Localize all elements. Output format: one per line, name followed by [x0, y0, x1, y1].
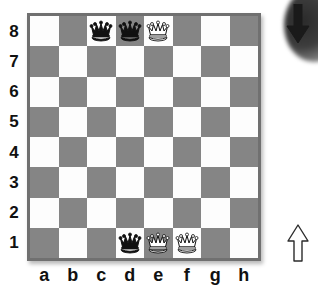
arrow-down-icon	[286, 4, 310, 44]
square-f6[interactable]	[173, 77, 202, 107]
rank-label-8: 8	[2, 16, 26, 46]
square-d8[interactable]	[116, 16, 145, 46]
square-h2[interactable]	[230, 198, 259, 228]
file-label-h: h	[230, 262, 259, 288]
square-e3[interactable]	[144, 167, 173, 197]
square-a5[interactable]	[30, 107, 59, 137]
file-label-a: a	[30, 262, 59, 288]
square-f2[interactable]	[173, 198, 202, 228]
square-b7[interactable]	[59, 46, 88, 76]
square-b3[interactable]	[59, 167, 88, 197]
file-label-c: c	[87, 262, 116, 288]
square-a4[interactable]	[30, 137, 59, 167]
square-d5[interactable]	[116, 107, 145, 137]
square-c5[interactable]	[87, 107, 116, 137]
rank-label-6: 6	[2, 77, 26, 107]
square-g3[interactable]	[201, 167, 230, 197]
file-label-f: f	[173, 262, 202, 288]
black-queen-piece[interactable]	[118, 19, 142, 43]
square-h7[interactable]	[230, 46, 259, 76]
square-e8[interactable]	[144, 16, 173, 46]
square-d1[interactable]	[116, 228, 145, 258]
square-e5[interactable]	[144, 107, 173, 137]
square-a3[interactable]	[30, 167, 59, 197]
rank-label-3: 3	[2, 167, 26, 197]
black-queen-piece[interactable]	[89, 19, 113, 43]
square-g5[interactable]	[201, 107, 230, 137]
rank-label-5: 5	[2, 107, 26, 137]
square-h6[interactable]	[230, 77, 259, 107]
square-h8[interactable]	[230, 16, 259, 46]
square-d7[interactable]	[116, 46, 145, 76]
square-b1[interactable]	[59, 228, 88, 258]
square-a6[interactable]	[30, 77, 59, 107]
rank-label-2: 2	[2, 198, 26, 228]
square-g7[interactable]	[201, 46, 230, 76]
square-g8[interactable]	[201, 16, 230, 46]
rank-label-4: 4	[2, 137, 26, 167]
square-g6[interactable]	[201, 77, 230, 107]
square-a2[interactable]	[30, 198, 59, 228]
square-d3[interactable]	[116, 167, 145, 197]
square-d4[interactable]	[116, 137, 145, 167]
square-c8[interactable]	[87, 16, 116, 46]
arrow-up-icon	[287, 224, 309, 262]
file-label-b: b	[59, 262, 88, 288]
square-b6[interactable]	[59, 77, 88, 107]
square-h3[interactable]	[230, 167, 259, 197]
square-g4[interactable]	[201, 137, 230, 167]
square-d6[interactable]	[116, 77, 145, 107]
square-b2[interactable]	[59, 198, 88, 228]
square-f4[interactable]	[173, 137, 202, 167]
square-f3[interactable]	[173, 167, 202, 197]
white-queen-piece[interactable]	[146, 19, 170, 43]
square-e7[interactable]	[144, 46, 173, 76]
square-c2[interactable]	[87, 198, 116, 228]
square-a1[interactable]	[30, 228, 59, 258]
square-a7[interactable]	[30, 46, 59, 76]
file-label-d: d	[116, 262, 145, 288]
chess-diagram: 87654321 abcdefgh	[0, 0, 318, 292]
white-queen-piece[interactable]	[146, 231, 170, 255]
square-f8[interactable]	[173, 16, 202, 46]
square-e2[interactable]	[144, 198, 173, 228]
rank-label-1: 1	[2, 228, 26, 258]
rank-label-7: 7	[2, 46, 26, 76]
square-a8[interactable]	[30, 16, 59, 46]
square-b4[interactable]	[59, 137, 88, 167]
white-queen-piece[interactable]	[175, 231, 199, 255]
square-c7[interactable]	[87, 46, 116, 76]
square-f5[interactable]	[173, 107, 202, 137]
square-h1[interactable]	[230, 228, 259, 258]
square-g1[interactable]	[201, 228, 230, 258]
file-label-g: g	[201, 262, 230, 288]
square-c4[interactable]	[87, 137, 116, 167]
square-e4[interactable]	[144, 137, 173, 167]
square-c1[interactable]	[87, 228, 116, 258]
square-h5[interactable]	[230, 107, 259, 137]
square-h4[interactable]	[230, 137, 259, 167]
chess-board	[27, 13, 261, 261]
board-grid	[30, 16, 258, 258]
square-f7[interactable]	[173, 46, 202, 76]
black-queen-piece[interactable]	[118, 231, 142, 255]
square-b5[interactable]	[59, 107, 88, 137]
square-d2[interactable]	[116, 198, 145, 228]
square-g2[interactable]	[201, 198, 230, 228]
square-c3[interactable]	[87, 167, 116, 197]
square-e1[interactable]	[144, 228, 173, 258]
square-e6[interactable]	[144, 77, 173, 107]
square-f1[interactable]	[173, 228, 202, 258]
rank-labels: 87654321	[2, 16, 26, 258]
file-label-e: e	[144, 262, 173, 288]
square-b8[interactable]	[59, 16, 88, 46]
square-c6[interactable]	[87, 77, 116, 107]
file-labels: abcdefgh	[30, 262, 258, 288]
